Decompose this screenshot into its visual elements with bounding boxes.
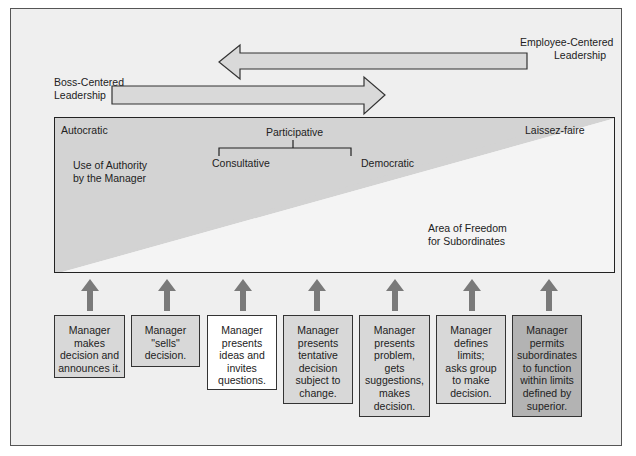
up-arrow-icon	[386, 279, 404, 311]
consultative-label: Consultative	[212, 157, 270, 170]
authority-freedom-panel: Autocratic Participative Consultative De…	[54, 117, 615, 273]
laissez-faire-label: Laissez-faire	[525, 124, 585, 137]
employee-centered-line2: Leadership	[520, 49, 606, 62]
up-arrow-icon	[81, 279, 99, 311]
up-arrow-icon	[158, 279, 176, 311]
behavior-box-4: Manager presents tentative decision subj…	[283, 315, 353, 404]
boss-centered-line1: Boss-Centered	[54, 76, 124, 89]
employee-centered-line1: Employee-Centered	[520, 36, 606, 49]
behavior-box-3: Manager presents ideas and invites quest…	[207, 315, 277, 390]
authority-line2: by the Manager	[73, 172, 147, 185]
arrow-left-icon	[219, 45, 527, 79]
behavior-box-6: Manager defines limits; asks group to ma…	[436, 315, 506, 404]
behavior-box-7: Manager permits subordinates to function…	[512, 315, 582, 417]
freedom-label: Area of Freedom for Subordinates	[428, 222, 507, 248]
up-arrow-icon	[463, 279, 481, 311]
authority-triangle	[55, 118, 615, 273]
democratic-label: Democratic	[361, 157, 414, 170]
boss-centered-label: Boss-Centered Leadership	[54, 76, 124, 102]
freedom-line2: for Subordinates	[428, 235, 507, 248]
up-arrow-icon	[540, 279, 558, 311]
authority-line1: Use of Authority	[73, 159, 147, 172]
participative-label: Participative	[266, 126, 323, 139]
freedom-line1: Area of Freedom	[428, 222, 507, 235]
employee-centered-label: Employee-Centered Leadership	[520, 36, 606, 62]
behavior-box-2: Manager "sells" decision.	[131, 315, 200, 367]
behavior-box-1: Manager makes decision and announces it.	[54, 315, 125, 378]
up-arrow-icon	[234, 279, 252, 311]
boss-centered-line2: Leadership	[54, 89, 124, 102]
authority-label: Use of Authority by the Manager	[73, 159, 147, 185]
up-arrow-icon	[308, 279, 326, 311]
arrow-right-icon	[112, 77, 385, 114]
autocratic-label: Autocratic	[61, 124, 108, 137]
behavior-box-5: Manager presents problem, gets suggestio…	[359, 315, 430, 417]
